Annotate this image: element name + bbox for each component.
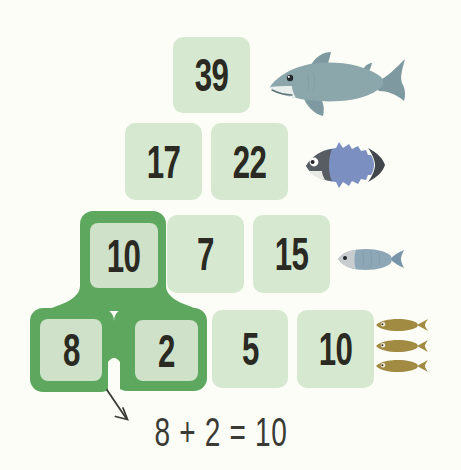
pyramid-tile-39: 39 (173, 37, 250, 113)
pyramid-tile-2-highlighted: 2 (135, 320, 198, 381)
tile-value: 39 (195, 52, 228, 98)
shark-icon (266, 50, 408, 120)
pyramid-tile-15: 15 (253, 215, 330, 293)
worksheet-page: 39 17 22 10 7 15 8 2 5 10 (0, 0, 461, 470)
tile-value: 5 (242, 326, 259, 372)
tile-value: 10 (107, 233, 140, 279)
pyramid-tile-5: 5 (212, 310, 288, 388)
tile-value: 17 (147, 139, 180, 185)
pyramid-tile-10-highlighted: 10 (90, 223, 158, 288)
anchovy-fish-icon (376, 340, 428, 352)
anchovy-fish-icon (376, 319, 428, 331)
annotation-arrow (107, 390, 128, 420)
example-equation-text: 8 + 2 = 10 (155, 412, 288, 452)
highlight-frame-notch (108, 358, 120, 392)
pyramid-tile-22: 22 (211, 123, 288, 200)
tile-value: 8 (63, 327, 80, 373)
tile-value: 2 (158, 328, 175, 374)
pyramid-tile-17: 17 (125, 123, 202, 200)
sardine-fish-icon (336, 246, 406, 273)
anchovy-fish-group-icon (375, 318, 429, 374)
tile-value: 15 (275, 231, 308, 277)
pyramid-tile-10-bottom: 10 (297, 310, 374, 388)
anchovy-fish-icon (376, 360, 428, 372)
tile-value: 10 (319, 326, 352, 372)
tile-value: 7 (197, 231, 214, 277)
pyramid-tile-7: 7 (167, 215, 244, 293)
tuna-fish-icon (300, 138, 390, 192)
pyramid-tile-8-highlighted: 8 (40, 319, 102, 381)
example-equation: 8 + 2 = 10 (126, 410, 272, 455)
tile-value: 22 (233, 139, 266, 185)
